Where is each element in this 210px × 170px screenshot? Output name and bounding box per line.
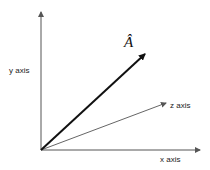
vector-a-label: Â: [123, 34, 134, 50]
y-axis-label: y axis: [9, 66, 29, 75]
z-axis-line: [41, 103, 166, 150]
vector-a-arrow: [41, 54, 145, 150]
coordinate-diagram: Â y axis z axis x axis: [0, 0, 210, 170]
z-axis-label: z axis: [170, 101, 190, 110]
x-axis-label: x axis: [160, 155, 180, 164]
